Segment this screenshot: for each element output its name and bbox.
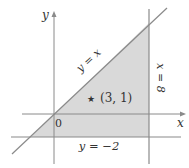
origin-label: 0 — [55, 117, 62, 130]
point-label: (3, 1) — [100, 91, 132, 105]
y-axis-label: y — [41, 8, 49, 22]
x-axis-label: x — [177, 116, 184, 130]
horizontal-line-label: y = −2 — [78, 139, 119, 153]
vertical-line-label: x = 8 — [154, 63, 167, 92]
region-diagram: y x 0 y = x x = 8 y = −2 ★ (3, 1) — [0, 0, 189, 168]
star-icon: ★ — [87, 94, 95, 104]
y-axis-arrow-icon — [52, 11, 57, 17]
